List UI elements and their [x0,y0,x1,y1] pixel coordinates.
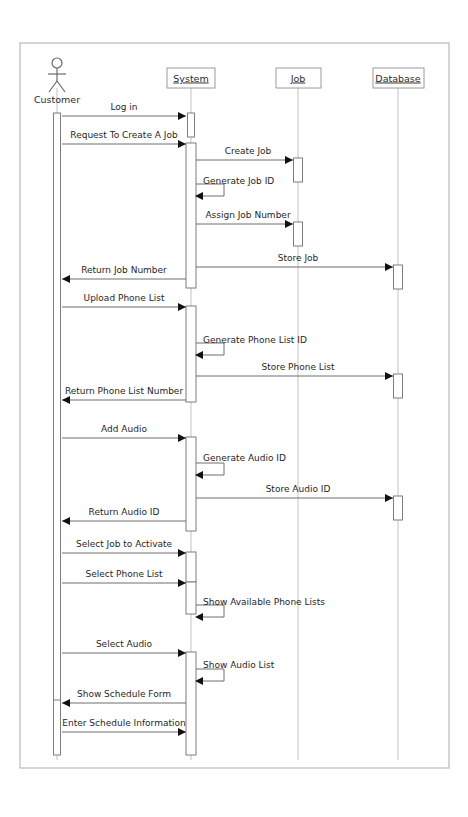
message-label: Log in [110,102,137,112]
message-21: Show Schedule Form [62,689,186,707]
sequence-diagram-canvas: Log inRequest To Create A JobCreate JobG… [0,0,468,817]
message-13: Generate Audio ID [195,453,286,479]
message-label: Select Job to Activate [76,539,173,549]
arrow-head [178,303,186,311]
message-label: Store Job [278,253,319,263]
actor-head-icon [52,58,62,68]
activation-bar-job [294,222,303,246]
messages-group: Log inRequest To Create A JobCreate JobG… [62,102,393,736]
message-11: Return Phone List Number [62,386,186,404]
activation-bar-system [186,582,196,614]
participant-boxes-group: SystemJobDatabase [167,68,424,88]
message-label: Show Schedule Form [77,689,171,699]
message-label: Upload Phone List [84,293,165,303]
activation-bar-system [186,437,196,531]
arrow-head [285,220,293,228]
message-19: Select Audio [62,639,186,657]
message-label: Return Audio ID [89,507,160,517]
activation-bar-system [186,306,196,402]
message-label: Store Phone List [261,362,335,372]
message-7: Return Job Number [62,265,186,283]
message-22: Enter Schedule Information [62,718,186,736]
message-9: Generate Phone List ID [195,335,307,359]
activation-bar-database [394,374,403,398]
message-12: Add Audio [62,424,186,442]
activation-bar-customer [54,113,61,706]
message-label: Generate Job ID [203,176,274,186]
message-label: Select Audio [96,639,153,649]
message-4: Generate Job ID [195,176,274,200]
activation-bar-database [394,496,403,520]
activation-bar-system [186,143,196,288]
message-label: Generate Audio ID [203,453,286,463]
participant-label-job: Job [290,73,306,84]
activation-bar-system [186,552,196,582]
message-label: Create Job [225,146,272,156]
arrow-head [178,649,186,657]
participant-label-customer: Customer [34,94,80,105]
message-label: Generate Phone List ID [203,335,307,345]
message-17: Select Phone List [62,569,186,587]
message-label: Show Available Phone Lists [203,597,325,607]
actor-figure-group: Customer [34,58,80,105]
message-6: Store Job [196,253,393,271]
message-20: Show Audio List [195,660,275,685]
activation-bar-system [188,113,195,137]
arrow-head [62,699,70,707]
message-8: Upload Phone List [62,293,186,311]
arrow-head [62,517,70,525]
message-18: Show Available Phone Lists [195,597,325,621]
message-label: Add Audio [101,424,147,434]
arrow-head [178,549,186,557]
message-5: Assign Job Number [196,210,293,228]
message-label: Show Audio List [203,660,275,670]
message-10: Store Phone List [196,362,393,380]
message-label: Request To Create A Job [70,130,178,140]
arrow-head [385,372,393,380]
activation-bar-customer [54,700,61,755]
message-15: Return Audio ID [62,507,186,525]
arrow-head [285,156,293,164]
activation-bar-database [394,265,403,289]
participant-label-system: System [173,73,208,84]
arrow-head [178,434,186,442]
message-label: Return Job Number [81,265,167,275]
message-2: Request To Create A Job [62,130,186,148]
actor-leg-right-icon [57,81,65,92]
arrow-head [385,263,393,271]
actor-leg-left-icon [49,81,57,92]
arrow-head [178,728,186,736]
activation-bar-system [186,652,196,755]
arrow-head [62,396,70,404]
arrow-head [178,579,186,587]
message-label: Assign Job Number [205,210,291,220]
message-16: Select Job to Activate [62,539,186,557]
message-label: Store Audio ID [266,484,331,494]
message-label: Select Phone List [85,569,163,579]
arrow-head [62,275,70,283]
participant-label-database: Database [375,73,420,84]
activation-bar-job [294,158,303,182]
sequence-diagram-svg: Log inRequest To Create A JobCreate JobG… [0,0,468,817]
message-3: Create Job [196,146,293,164]
message-label: Return Phone List Number [65,386,184,396]
arrow-head [385,494,393,502]
message-label: Enter Schedule Information [62,718,185,728]
arrow-head [178,112,186,120]
message-1: Log in [62,102,186,120]
arrow-head [178,140,186,148]
message-14: Store Audio ID [196,484,393,502]
